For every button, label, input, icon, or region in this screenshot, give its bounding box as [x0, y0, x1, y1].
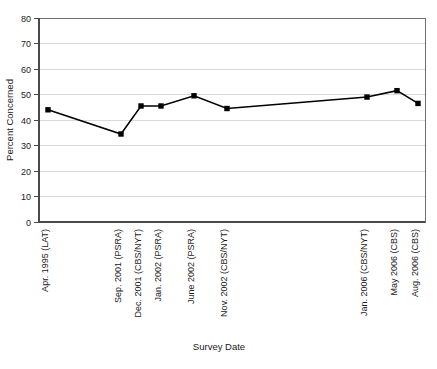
y-tick-label: 10 — [21, 192, 31, 202]
y-tick-label: 30 — [21, 141, 31, 151]
y-tick-label: 80 — [21, 14, 31, 24]
x-category-label: Jan. 2002 (PSRA) — [153, 229, 163, 302]
y-axis-title: Percent Concerned — [4, 79, 15, 161]
data-point — [138, 103, 143, 108]
data-point — [158, 103, 163, 108]
y-tick-label: 50 — [21, 90, 31, 100]
x-category-label: June 2002 (PSRA) — [186, 229, 196, 304]
y-tick-label: 40 — [21, 116, 31, 126]
y-tick-label: 60 — [21, 65, 31, 75]
x-category-label: Jan. 2006 (CBS/NYT) — [359, 229, 369, 316]
data-point — [394, 88, 399, 93]
data-point — [364, 94, 369, 99]
x-category-label: Dec. 2001 (CBS/NYT) — [133, 229, 143, 318]
data-point — [45, 107, 50, 112]
x-axis-title: Survey Date — [193, 341, 245, 352]
x-category-label: May 2006 (CBS) — [389, 229, 399, 296]
data-point — [224, 106, 229, 111]
x-category-labels: Apr. 1995 (LAT)Sep. 2001 (PSRA)Dec. 2001… — [40, 229, 420, 318]
line-chart: 80 70 60 50 40 30 20 10 0 Percent Concer… — [0, 0, 437, 369]
x-category-label: Aug. 2006 (CBS) — [410, 229, 420, 297]
x-category-label: Nov. 2002 (CBS/NYT) — [219, 229, 229, 317]
x-category-label: Sep. 2001 (PSRA) — [113, 229, 123, 303]
y-tickmarks — [34, 18, 39, 222]
data-point — [415, 101, 420, 106]
y-tick-label: 20 — [21, 167, 31, 177]
chart-container: 80 70 60 50 40 30 20 10 0 Percent Concer… — [0, 0, 437, 369]
x-category-label: Apr. 1995 (LAT) — [40, 229, 50, 292]
y-tick-label: 0 — [26, 218, 31, 228]
data-point — [191, 93, 196, 98]
data-point — [118, 131, 123, 136]
y-tick-label: 70 — [21, 39, 31, 49]
y-tick-labels: 80 70 60 50 40 30 20 10 0 — [21, 14, 31, 228]
